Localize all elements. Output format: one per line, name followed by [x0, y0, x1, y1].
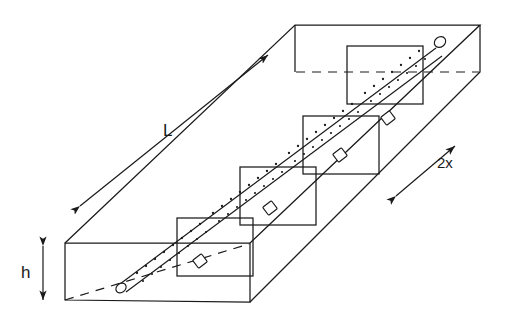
rod-bead-2 — [263, 201, 278, 216]
slab-hidden-edges — [65, 72, 479, 300]
rod-rail-lower — [120, 48, 436, 284]
hidden-bottom-back-edge — [65, 244, 249, 300]
slab-diagram-svg — [0, 0, 505, 324]
rod-bead-4 — [381, 111, 396, 126]
length-label: L — [163, 122, 172, 139]
rod-bead-3 — [333, 148, 348, 163]
slab-body — [65, 25, 480, 302]
diagonal-rod — [114, 34, 448, 294]
rod-end-cap-upper — [432, 34, 448, 49]
cross-section-frames — [177, 46, 423, 276]
diagram-canvas: L h 2x — [0, 0, 505, 324]
rod-end-cap-lower — [114, 281, 128, 295]
rod-rail-upper — [126, 56, 442, 292]
height-label: h — [21, 264, 30, 281]
stipple-group-1 — [136, 223, 207, 282]
cross-section-4 — [347, 46, 423, 104]
cross-section-1 — [177, 218, 253, 276]
rod-bead-1 — [193, 254, 208, 269]
cross-section-3 — [303, 116, 379, 174]
width-label: 2x — [437, 155, 453, 170]
rod-stipple-shading — [136, 50, 426, 282]
